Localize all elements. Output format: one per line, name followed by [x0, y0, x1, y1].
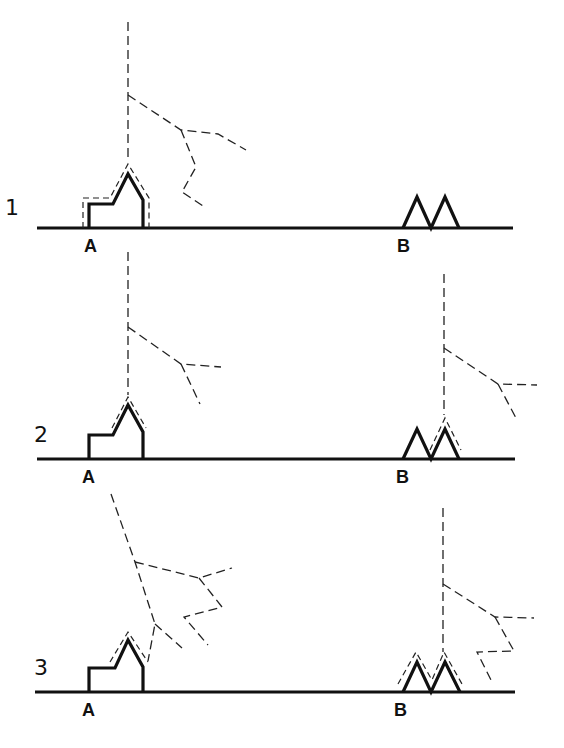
church-a — [89, 405, 143, 459]
leader-branch-b — [444, 348, 537, 385]
panel-number-1: 1 — [5, 195, 19, 220]
church-a — [89, 640, 143, 692]
leader-branch-b — [443, 584, 534, 618]
church-a — [89, 174, 143, 228]
leader-subbranch — [181, 130, 206, 208]
panel-2 — [37, 252, 537, 459]
twin-towers-b — [403, 429, 459, 459]
leader-branch-a — [128, 327, 221, 367]
leader-main-a — [111, 494, 155, 661]
streamer-halo-b — [430, 418, 461, 450]
leader-subbranch-a — [184, 578, 222, 645]
leader-twig-a — [155, 624, 182, 648]
leader-subbranch-b — [498, 384, 516, 418]
leader-subbranch-a — [181, 364, 200, 404]
label-a-1: A — [84, 236, 97, 257]
leader-subbranch-b — [477, 617, 514, 684]
lightning-diagram — [0, 0, 564, 748]
panel-number-3: 3 — [34, 655, 48, 680]
streamer-halo-a — [110, 632, 148, 662]
label-b-2: B — [396, 467, 409, 488]
twin-towers-b — [403, 662, 460, 692]
label-a-3: A — [82, 700, 95, 721]
leader-branch — [128, 95, 246, 150]
leader-branch-a — [135, 562, 232, 578]
panel-3 — [35, 494, 534, 692]
twin-towers-b — [403, 197, 459, 228]
panel-number-2: 2 — [34, 422, 48, 447]
label-b-3: B — [394, 700, 407, 721]
label-b-1: B — [397, 236, 410, 257]
panel-1 — [37, 22, 513, 228]
label-a-2: A — [82, 467, 95, 488]
